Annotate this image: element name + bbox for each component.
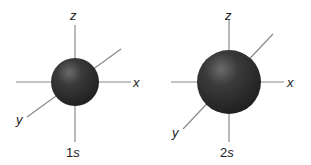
x-label: x	[286, 75, 294, 90]
y-label: y	[171, 125, 180, 140]
orbital-1s: z x y 1s	[15, 8, 140, 160]
orbital-diagram: z x y 1s z x y 2s	[0, 0, 311, 165]
orbital-2s: z x y 2s	[171, 8, 294, 160]
z-label: z	[69, 8, 77, 23]
orbital-label-1s: 1s	[66, 145, 80, 160]
z-label: z	[224, 8, 232, 23]
orbital-label-2s: 2s	[220, 145, 234, 160]
sphere-2s	[197, 50, 261, 114]
y-label: y	[15, 112, 24, 127]
x-label: x	[132, 75, 140, 90]
sphere-1s	[51, 58, 99, 106]
